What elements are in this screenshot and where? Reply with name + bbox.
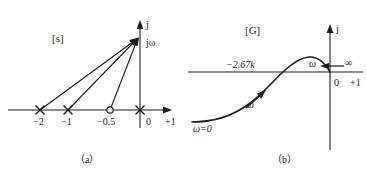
omega-start-label: ω=0 bbox=[193, 124, 212, 134]
vector-arrows-group bbox=[40, 38, 139, 111]
tick-label-plus-1-b: +1 bbox=[350, 78, 361, 88]
zero-marker-minus-0-5 bbox=[107, 107, 113, 113]
panel-s-plane: [s] j jω −2 −1 −0.5 0 +1 （a） bbox=[0, 0, 184, 176]
real-axis-value-label: −2.67k bbox=[226, 60, 255, 70]
tick-label-minus-1: −1 bbox=[61, 117, 72, 127]
figure-root: [s] j jω −2 −1 −0.5 0 +1 （a） bbox=[0, 0, 367, 176]
omega-limit-symbol: ω bbox=[309, 59, 316, 69]
g-plane-label: [G] bbox=[245, 25, 260, 36]
imaginary-axis-label-j: j bbox=[146, 20, 149, 30]
s-plane-label: [s] bbox=[52, 33, 64, 44]
tick-label-minus-2: −2 bbox=[33, 117, 44, 127]
omega-limit-infinity: ∞ bbox=[345, 58, 352, 68]
omega-direction-label: ω bbox=[247, 100, 254, 110]
g-plane-graphic bbox=[184, 0, 367, 176]
caption-a: （a） bbox=[75, 155, 99, 165]
real-axis-s-plane bbox=[8, 107, 172, 114]
imaginary-axis-label-j-b: j bbox=[336, 24, 339, 34]
tick-label-plus-1: +1 bbox=[165, 117, 176, 127]
tick-label-minus-0-5: −0.5 bbox=[97, 117, 115, 127]
point-label-j-omega: jω bbox=[146, 38, 155, 48]
caption-b: （b） bbox=[272, 155, 297, 165]
tick-label-zero-b: 0 bbox=[334, 78, 339, 88]
s-plane-graphic bbox=[0, 0, 184, 176]
panel-g-plane: [G] j −2.67k ω=0 ω ω ∞ 0 +1 （b） bbox=[184, 0, 367, 176]
tick-label-zero: 0 bbox=[146, 117, 151, 127]
imaginary-axis-g-plane bbox=[327, 24, 334, 150]
vector-from-pole-minus-1 bbox=[68, 38, 139, 111]
